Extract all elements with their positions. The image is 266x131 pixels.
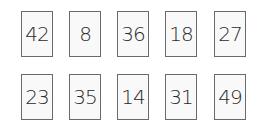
card: 36 xyxy=(117,11,149,57)
card: 14 xyxy=(117,74,149,120)
card: 42 xyxy=(21,11,53,57)
card: 49 xyxy=(214,74,246,120)
card: 23 xyxy=(21,74,53,120)
card: 18 xyxy=(165,11,197,57)
card: 8 xyxy=(69,11,101,57)
card: 35 xyxy=(69,74,101,120)
card: 27 xyxy=(214,11,246,57)
card: 31 xyxy=(165,74,197,120)
